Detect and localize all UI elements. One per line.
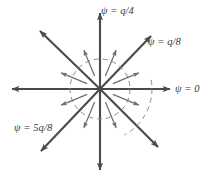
minor-arrow-112 (84, 50, 95, 76)
major-rays-group (12, 13, 170, 170)
minor-arrow-337 (113, 94, 139, 105)
ray-lower-left (41, 89, 100, 151)
minor-arrow-202 (61, 94, 87, 105)
ray-upper-right (100, 36, 151, 89)
label-psi-zero: ψ = 0 (175, 84, 200, 95)
minor-arrow-247 (84, 102, 95, 128)
label-psi-q-over-4: ψ = q/4 (101, 6, 134, 17)
label-psi-q-over-8: ψ = q/8 (148, 37, 181, 48)
label-psi-5q-over-8: ψ = 5q/8 (14, 123, 52, 134)
radial-ray-diagram: ψ = q/4 ψ = q/8 ψ = 0 ψ = 5q/8 (0, 0, 214, 176)
ray-upper-left (40, 31, 100, 89)
